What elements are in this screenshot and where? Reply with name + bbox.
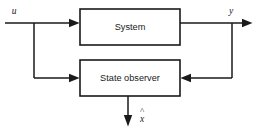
wire-observer-to-xhat bbox=[124, 96, 132, 127]
wire-system-to-y bbox=[180, 19, 253, 27]
block-state-observer-label: State observer bbox=[100, 73, 160, 83]
block-state-observer[interactable]: State observer bbox=[80, 60, 180, 96]
signal-label-y: y bbox=[228, 6, 234, 16]
wire-u-to-system bbox=[5, 19, 80, 27]
block-system[interactable]: System bbox=[80, 9, 180, 45]
block-diagram-canvas: System State observer u y ^ x bbox=[0, 0, 256, 136]
block-system-label: System bbox=[115, 22, 146, 32]
wire-y-branch-to-observer bbox=[180, 23, 232, 82]
signal-label-u: u bbox=[12, 6, 17, 16]
wire-u-branch-to-observer bbox=[34, 23, 80, 82]
block-diagram-svg: System State observer u y ^ x bbox=[0, 0, 256, 136]
signal-label-x: x bbox=[139, 114, 145, 124]
signal-label-x-hat: ^ x bbox=[139, 106, 145, 124]
